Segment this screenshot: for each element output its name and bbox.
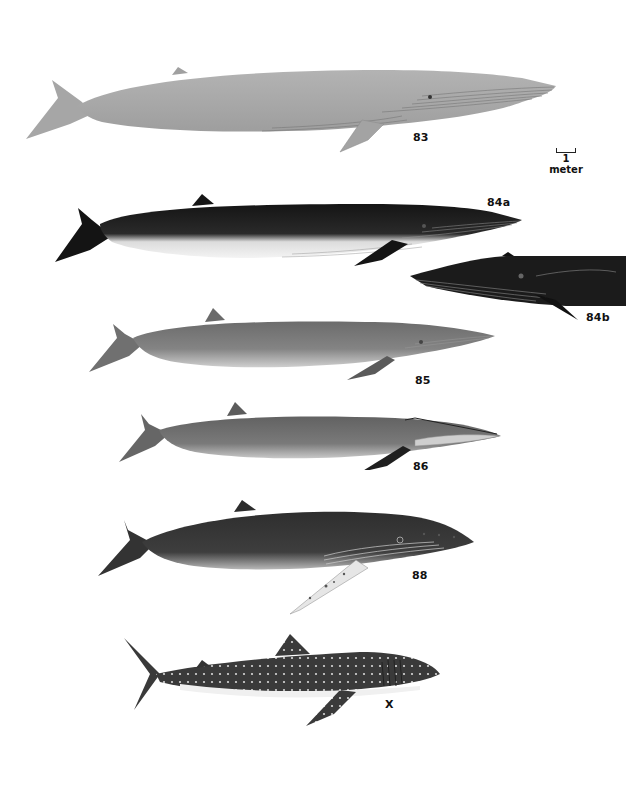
figure-label-88: 88: [412, 569, 428, 582]
brydes-whale-illustration: [115, 400, 505, 470]
figure-label-85: 85: [415, 374, 431, 387]
humpback-whale-illustration: [94, 498, 484, 616]
blue-whale-illustration: [22, 62, 562, 157]
figure-label-x: X: [385, 698, 394, 711]
species-plate: 83 1 meter: [0, 0, 644, 785]
figure-label-84a: 84a: [487, 196, 510, 209]
whale-shark-illustration: [120, 630, 445, 730]
figure-x-whale-shark: [120, 630, 445, 730]
figure-86-brydes-whale: [115, 400, 505, 470]
figure-88-humpback-whale: [94, 498, 484, 616]
scale-bar-value: 1: [546, 153, 586, 164]
figure-label-86: 86: [413, 460, 429, 473]
figure-label-83: 83: [413, 131, 429, 144]
figure-label-84b: 84b: [586, 311, 610, 324]
figure-85-sei-whale: [85, 304, 500, 382]
scale-bar-unit: meter: [546, 164, 586, 175]
scale-bar: 1 meter: [546, 148, 586, 175]
figure-83-blue-whale: [22, 62, 562, 157]
sei-whale-illustration: [85, 304, 500, 382]
